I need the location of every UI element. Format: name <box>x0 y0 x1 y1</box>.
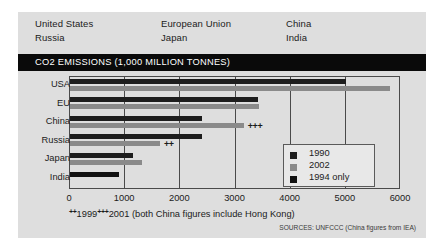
country-label-russia: Russia <box>35 31 93 45</box>
country-column-2: European Union Japan <box>161 17 231 44</box>
xtick-5000: 5000 <box>334 193 355 203</box>
bar-russia-1990 <box>70 134 202 139</box>
bar-china-1990 <box>70 116 202 121</box>
bar-japan-1990 <box>70 153 133 158</box>
legend-label-1994-only: 1994 only <box>309 172 349 182</box>
chart-title: CO2 EMISSIONS (1,000 MILLION TONNES) <box>35 57 230 67</box>
xtick-3000: 3000 <box>224 193 245 203</box>
legend-label-2002: 2002 <box>309 160 330 170</box>
legend-label-1990: 1990 <box>309 148 330 158</box>
country-label-japan: Japan <box>161 31 231 45</box>
plot-area: USAEUChinaRussiaJapanIndia +++++ 1990200… <box>18 74 426 194</box>
footnote-mark-a: ++ <box>69 208 77 215</box>
bar-china-2002 <box>70 123 244 128</box>
source-line: SOURCES: UNFCCC (China figures from IEA) <box>279 224 416 231</box>
bar-eu-1990 <box>70 97 258 102</box>
country-column-3: China India <box>286 17 311 44</box>
bar-row <box>70 95 401 114</box>
bar-usa-2002 <box>70 86 390 91</box>
bar-india-1994-only <box>70 172 119 177</box>
category-label-china: China <box>20 116 70 126</box>
bar-annotation-china: +++ <box>248 121 263 131</box>
country-header: United States Russia European Union Japa… <box>18 12 426 54</box>
xtick-4000: 4000 <box>279 193 300 203</box>
chart-title-bar: CO2 EMISSIONS (1,000 MILLION TONNES) <box>18 54 426 71</box>
legend-swatch-2002 <box>290 164 297 171</box>
category-label-india: India <box>20 172 70 182</box>
bar-row: +++ <box>70 113 401 132</box>
legend-swatch-1990 <box>290 152 297 159</box>
country-label-european-union: European Union <box>161 17 231 31</box>
footnote-mark-b: +++ <box>97 208 108 215</box>
category-label-japan: Japan <box>20 153 70 163</box>
footnote-year-a: 1999 <box>77 209 98 219</box>
category-label-russia: Russia <box>20 135 70 145</box>
xtick-1000: 1000 <box>114 193 135 203</box>
chart-legend: 199020021994 only <box>283 144 375 187</box>
country-column-1: United States Russia <box>35 17 93 44</box>
xtick-2000: 2000 <box>169 193 190 203</box>
category-label-usa: USA <box>20 79 70 89</box>
bar-russia-2002 <box>70 141 160 146</box>
chart-figure: United States Russia European Union Japa… <box>18 12 426 238</box>
bar-eu-2002 <box>70 104 259 109</box>
country-label-china: China <box>286 17 311 31</box>
xtick-6000: 6000 <box>390 193 411 203</box>
bar-row <box>70 76 401 95</box>
footnote: ++1999+++2001 (both China figures includ… <box>69 208 295 219</box>
category-label-eu: EU <box>20 98 70 108</box>
footnote-year-b: 2001 (both China figures include Hong Ko… <box>109 209 295 219</box>
xtick-0: 0 <box>66 193 71 203</box>
bar-usa-1990 <box>70 79 346 84</box>
value-axis-labels: 0100020003000400050006000 <box>18 193 426 207</box>
legend-swatch-1994-only <box>290 176 297 183</box>
bar-japan-2002 <box>70 160 142 165</box>
country-label-india: India <box>286 31 311 45</box>
country-label-united-states: United States <box>35 17 93 31</box>
bar-annotation-russia: ++ <box>164 139 174 149</box>
